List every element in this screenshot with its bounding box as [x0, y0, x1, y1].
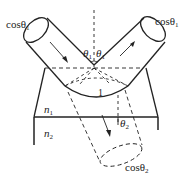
- label-text: cosθ: [6, 18, 26, 30]
- label-sub: 1: [175, 21, 179, 29]
- refracted-area-label: cosθ2: [125, 162, 148, 177]
- interface-plane-right: [146, 68, 158, 117]
- incident-angle-label: θ1: [83, 48, 92, 63]
- medium-lower-label: n2: [44, 128, 53, 143]
- unit-area-back: [65, 78, 128, 86]
- reflected-area-label: cosθ1: [155, 16, 178, 31]
- label-text: cosθ: [125, 161, 145, 173]
- reflected-angle-label: θ1: [96, 48, 105, 63]
- unit-area-front: [65, 86, 128, 97]
- incident-area-label: cosθ1: [6, 19, 29, 34]
- label-sub: 2: [125, 123, 129, 131]
- refracted-angle-label: θ2: [120, 118, 129, 133]
- label-sub: 2: [145, 167, 149, 175]
- refracted-beam-left: [68, 92, 100, 162]
- label-text: cosθ: [155, 15, 175, 27]
- label-sub: 1: [101, 53, 105, 61]
- label-sub: 2: [50, 133, 54, 141]
- medium-upper-label: n1: [44, 104, 53, 119]
- label-text: 1: [98, 87, 103, 98]
- unit-area-label: 1: [98, 87, 103, 98]
- label-sub: 1: [88, 53, 92, 61]
- label-sub: 1: [50, 109, 54, 117]
- label-sub: 1: [26, 24, 30, 32]
